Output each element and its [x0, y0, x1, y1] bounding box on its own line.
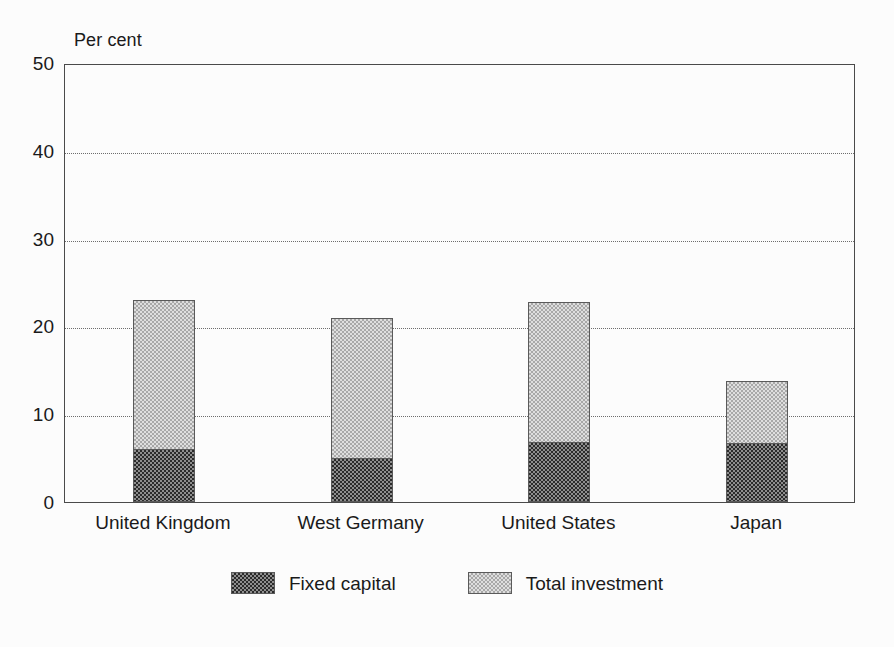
bar-chart: Per cent 01020304050 United KingdomWest …: [0, 0, 894, 647]
legend-swatch-icon: [231, 572, 275, 594]
y-axis-tick-label: 20: [8, 317, 54, 336]
x-axis-tick-label: West Germany: [297, 512, 423, 534]
x-axis-category-labels: United KingdomWest GermanyUnited StatesJ…: [64, 512, 855, 542]
legend-label: Fixed capital: [289, 574, 396, 593]
bar-segment-fixed-capital: [133, 449, 195, 502]
gridline: [65, 153, 854, 154]
y-axis-tick-label: 50: [8, 54, 54, 73]
x-axis-tick-label: United States: [501, 512, 615, 534]
y-axis-unit-label: Per cent: [74, 30, 142, 51]
chart-legend: Fixed capitalTotal investment: [0, 572, 894, 594]
bar-group: [133, 300, 195, 502]
x-axis-tick-label: United Kingdom: [95, 512, 230, 534]
y-axis-tick-label: 10: [8, 405, 54, 424]
legend-item[interactable]: Total investment: [468, 572, 663, 594]
bar-group: [726, 381, 788, 502]
plot-area: [64, 64, 855, 503]
bar-segment-fixed-capital: [528, 442, 590, 502]
legend-swatch-icon: [468, 572, 512, 594]
y-axis-tick-labels: 01020304050: [0, 64, 54, 503]
y-axis-tick-label: 0: [8, 493, 54, 512]
bar-segment-fixed-capital: [726, 443, 788, 502]
bar-segment-fixed-capital: [331, 458, 393, 502]
gridline: [65, 241, 854, 242]
y-axis-tick-label: 40: [8, 142, 54, 161]
y-axis-tick-label: 30: [8, 230, 54, 249]
bar-group: [331, 318, 393, 502]
x-axis-tick-label: Japan: [730, 512, 782, 534]
legend-label: Total investment: [526, 574, 663, 593]
legend-item[interactable]: Fixed capital: [231, 572, 396, 594]
bar-group: [528, 302, 590, 502]
